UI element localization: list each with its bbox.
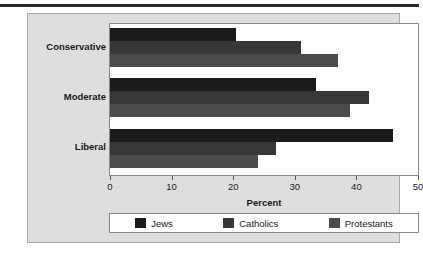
bar-group — [110, 78, 418, 117]
bar-protestants-liberal — [110, 155, 258, 168]
bar-group — [110, 129, 418, 168]
legend-swatch-protestants — [329, 218, 340, 228]
x-tick-label: 10 — [166, 181, 177, 192]
legend-label-jews: Jews — [151, 218, 173, 229]
x-tick-mark — [172, 176, 173, 180]
x-tick-mark — [233, 176, 234, 180]
category-label-conservative: Conservative — [30, 41, 106, 52]
x-tick-label: 40 — [351, 181, 362, 192]
legend-entry-jews[interactable]: Jews — [135, 218, 173, 229]
legend-swatch-catholics — [223, 218, 234, 228]
bar-jews-moderate — [110, 78, 316, 91]
x-tick-label: 0 — [107, 181, 112, 192]
bar-group — [110, 28, 418, 67]
bar-protestants-conservative — [110, 54, 338, 67]
plot-area — [109, 23, 419, 176]
bar-jews-liberal — [110, 129, 393, 142]
category-label-moderate: Moderate — [30, 91, 106, 102]
x-axis: 01020304050 — [109, 176, 419, 198]
x-tick-label: 20 — [228, 181, 239, 192]
x-tick-mark — [110, 176, 111, 180]
x-axis-title: Percent — [109, 197, 419, 208]
x-tick-mark — [418, 176, 419, 180]
bar-protestants-moderate — [110, 104, 350, 117]
chart-legend: JewsCatholicsProtestants — [109, 213, 419, 233]
bar-catholics-conservative — [110, 41, 301, 54]
x-tick-mark — [356, 176, 357, 180]
figure-panel: ConservativeModerateLiberal 01020304050 … — [27, 13, 400, 243]
legend-swatch-jews — [135, 218, 146, 228]
category-axis-labels: ConservativeModerateLiberal — [28, 23, 106, 176]
legend-label-catholics: Catholics — [239, 218, 278, 229]
legend-entry-protestants[interactable]: Protestants — [329, 218, 393, 229]
x-tick-label: 50 — [413, 181, 423, 192]
bar-catholics-moderate — [110, 91, 369, 104]
bar-catholics-liberal — [110, 142, 276, 155]
bars-container — [110, 24, 418, 175]
category-label-liberal: Liberal — [30, 141, 106, 152]
bar-jews-conservative — [110, 28, 236, 41]
top-divider-rule — [0, 4, 419, 7]
legend-entry-catholics[interactable]: Catholics — [223, 218, 278, 229]
legend-label-protestants: Protestants — [345, 218, 393, 229]
x-tick-label: 30 — [290, 181, 301, 192]
x-tick-mark — [295, 176, 296, 180]
